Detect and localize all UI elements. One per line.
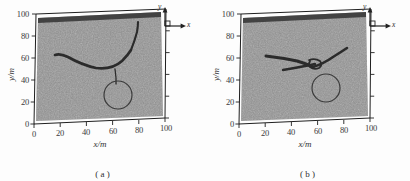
orientation-gizmo-b: y x (358, 4, 402, 36)
gizmo-x-arrow-b (386, 24, 391, 29)
gizmo-x-label-b: x (392, 20, 395, 29)
xtick-b-1: 20 (261, 128, 269, 138)
plot-svg-a (30, 8, 170, 132)
ytick-a-1: 20 (21, 97, 29, 107)
gizmo-y-arrow-a (163, 7, 168, 12)
gizmo-y-label-a: y (158, 2, 161, 11)
xtick-b-0: 0 (237, 129, 241, 139)
xtick-b-3: 60 (314, 126, 322, 136)
occupancy-map-b (235, 8, 375, 132)
xtick-b-4: 80 (340, 125, 348, 135)
panel-caption-a: ( a ) (95, 169, 110, 179)
ytick-b-0: 0 (230, 119, 234, 129)
yaxis-label-b: y/m (211, 68, 221, 81)
ytick-b-3: 60 (226, 53, 234, 63)
plot-area-a: 0 20 40 60 80 100 0 20 40 60 80 100 x/m … (30, 8, 170, 132)
ytick-b-2: 40 (226, 75, 234, 85)
xtick-a-3: 60 (109, 126, 117, 136)
ytick-b-1: 20 (226, 97, 234, 107)
plot-area-b: 0 20 40 60 80 100 0 20 40 60 80 100 x/m … (235, 8, 375, 132)
xtick-a-0: 0 (32, 129, 36, 139)
orientation-gizmo-a: y x (153, 4, 197, 36)
figure-panel-a: 0 20 40 60 80 100 0 20 40 60 80 100 x/m … (0, 0, 205, 181)
gizmo-x-arrow-a (181, 24, 186, 29)
ytick-a-5: 100 (17, 9, 29, 19)
xtick-b-2: 40 (287, 127, 295, 137)
ytick-a-3: 60 (21, 53, 29, 63)
xaxis-label-b: x/m (299, 139, 312, 149)
xtick-a-1: 20 (56, 128, 64, 138)
plot-svg-b (235, 8, 375, 132)
ytick-b-4: 80 (226, 31, 234, 41)
gizmo-y-label-b: y (363, 2, 366, 11)
figure-panel-b: 0 20 40 60 80 100 0 20 40 60 80 100 x/m … (205, 0, 410, 181)
panel-caption-b: ( b ) (300, 169, 315, 179)
ytick-a-4: 80 (21, 31, 29, 41)
xtick-b-5: 100 (365, 123, 377, 133)
xaxis-label-a: x/m (94, 139, 107, 149)
gizmo-x-label-a: x (187, 20, 190, 29)
xtick-a-5: 100 (160, 123, 172, 133)
xtick-a-4: 80 (135, 125, 143, 135)
ytick-b-5: 100 (222, 9, 234, 19)
gizmo-y-arrow-b (368, 7, 373, 12)
figure-container: 0 20 40 60 80 100 0 20 40 60 80 100 x/m … (0, 0, 410, 181)
occupancy-map-a (30, 8, 170, 132)
ytick-a-2: 40 (21, 75, 29, 85)
yaxis-label-a: y/m (6, 68, 16, 81)
ytick-a-0: 0 (25, 119, 29, 129)
xtick-a-2: 40 (82, 127, 90, 137)
